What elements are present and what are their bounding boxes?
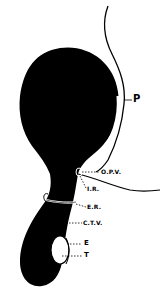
label-t: T [84,252,89,259]
label-er: E.R. [87,204,101,210]
label-ctv: C.T.V. [83,220,103,226]
label-opv: O.P.V. [101,169,121,175]
label-p: P [133,94,141,104]
ir-leader [80,176,86,188]
egg-ellipse [51,236,69,264]
label-ir: I.R. [87,186,99,192]
label-e: E [84,240,89,247]
er-leader [76,204,86,207]
